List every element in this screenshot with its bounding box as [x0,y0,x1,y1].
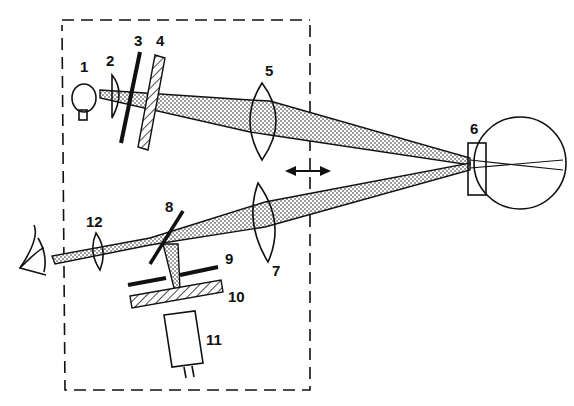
label-12: 12 [86,213,103,230]
label-9: 9 [225,250,233,267]
aperture-9 [128,278,166,285]
observer-eye-icon [20,225,46,275]
label-4: 4 [156,32,165,49]
label-6: 6 [470,120,478,137]
label-10: 10 [228,288,245,305]
observation-beam [52,163,470,292]
label-2: 2 [106,52,114,69]
aperture-9b [180,267,218,275]
label-1: 1 [80,58,88,75]
label-3: 3 [134,32,142,49]
label-7: 7 [272,262,280,279]
detector-11 [164,311,203,367]
optical-diagram: 1 2 3 4 5 7 6 8 9 10 11 12 [0,0,574,406]
label-11: 11 [206,331,222,348]
label-5: 5 [265,62,273,79]
patient-eye [468,117,566,209]
label-8: 8 [165,198,173,215]
light-bulb-icon [72,84,96,120]
double-arrow-icon [285,166,331,176]
